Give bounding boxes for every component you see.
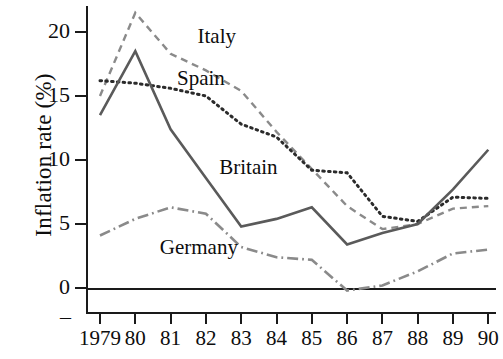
x-tick-label: 84 xyxy=(260,327,294,350)
y-tick-label: 10 xyxy=(22,148,70,170)
x-tick-label: 90 xyxy=(471,327,503,350)
y-tick-label: 0 xyxy=(22,276,70,298)
x-tick-90 xyxy=(487,313,489,324)
y-tick-label: 20 xyxy=(22,20,70,42)
x-tick-label: 80 xyxy=(118,327,152,350)
x-tick-84 xyxy=(276,313,278,324)
x-tick-label: 89 xyxy=(436,327,470,350)
x-tick-80 xyxy=(134,313,136,324)
series-label-spain: Spain xyxy=(177,68,225,89)
x-tick-89 xyxy=(452,313,454,324)
x-axis-line xyxy=(86,312,496,314)
series-label-germany: Germany xyxy=(160,237,238,258)
x-tick-label: 81 xyxy=(154,327,188,350)
y-tick-label: 15 xyxy=(22,84,70,106)
x-tick-label: 85 xyxy=(295,327,329,350)
x-tick-label: 88 xyxy=(401,327,435,350)
x-tick-87 xyxy=(381,313,383,324)
zero-baseline xyxy=(86,288,496,290)
series-label-italy: Italy xyxy=(198,26,236,47)
y-axis-minus-mark: – xyxy=(60,312,71,322)
x-tick-81 xyxy=(170,313,172,324)
x-tick-83 xyxy=(240,313,242,324)
x-tick-label: 83 xyxy=(224,327,258,350)
x-tick-label: 82 xyxy=(189,327,223,350)
x-tick-82 xyxy=(205,313,207,324)
x-tick-label: 86 xyxy=(330,327,364,350)
series-label-britain: Britain xyxy=(219,157,277,178)
x-tick-label: 87 xyxy=(365,327,399,350)
x-tick-1979 xyxy=(99,313,101,324)
plot-area xyxy=(86,6,496,288)
inflation-rate-line-chart: Inflation rate (%) – 05101520 1979808182… xyxy=(0,0,503,359)
x-tick-88 xyxy=(417,313,419,324)
x-tick-86 xyxy=(346,313,348,324)
y-tick-label: 5 xyxy=(22,212,70,234)
x-tick-85 xyxy=(311,313,313,324)
series-line-italy xyxy=(100,13,488,229)
series-line-britain xyxy=(100,51,488,244)
